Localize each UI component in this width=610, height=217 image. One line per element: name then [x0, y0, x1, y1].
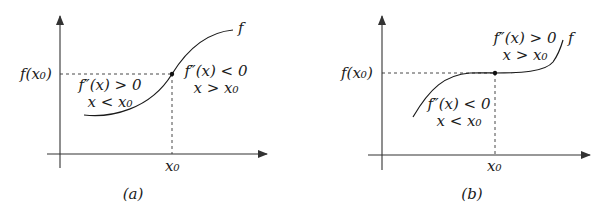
panel-a: f f(x₀) x₀ f″(x) > 0 x < x₀ f″(x) < 0 x …: [19, 16, 267, 203]
left-domain-b: x < x₀: [436, 112, 481, 130]
caption-b: (b): [461, 185, 482, 203]
y-tick-label-a: f(x₀): [19, 65, 52, 83]
panel-b: f f(x₀) x₀ f″(x) < 0 x < x₀ f″(x) > 0 x …: [340, 16, 590, 203]
inflection-point-diagrams: f f(x₀) x₀ f″(x) > 0 x < x₀ f″(x) < 0 x …: [0, 0, 610, 217]
left-condition-b: f″(x) < 0: [427, 95, 491, 113]
y-tick-label-b: f(x₀): [340, 64, 373, 82]
x-tick-label-b: x₀: [487, 157, 501, 175]
right-domain-a: x > x₀: [193, 79, 238, 97]
right-domain-b: x > x₀: [502, 46, 547, 64]
function-label-b: f: [567, 29, 576, 47]
inflection-point-b: [493, 71, 497, 75]
function-label-a: f: [237, 19, 246, 37]
x-tick-label-a: x₀: [165, 157, 179, 175]
left-condition-a: f″(x) > 0: [78, 76, 142, 94]
right-condition-b: f″(x) > 0: [493, 29, 557, 47]
right-condition-a: f″(x) < 0: [184, 62, 248, 80]
caption-a: (a): [123, 185, 144, 203]
left-domain-a: x < x₀: [87, 93, 132, 111]
inflection-point-a: [170, 72, 174, 76]
